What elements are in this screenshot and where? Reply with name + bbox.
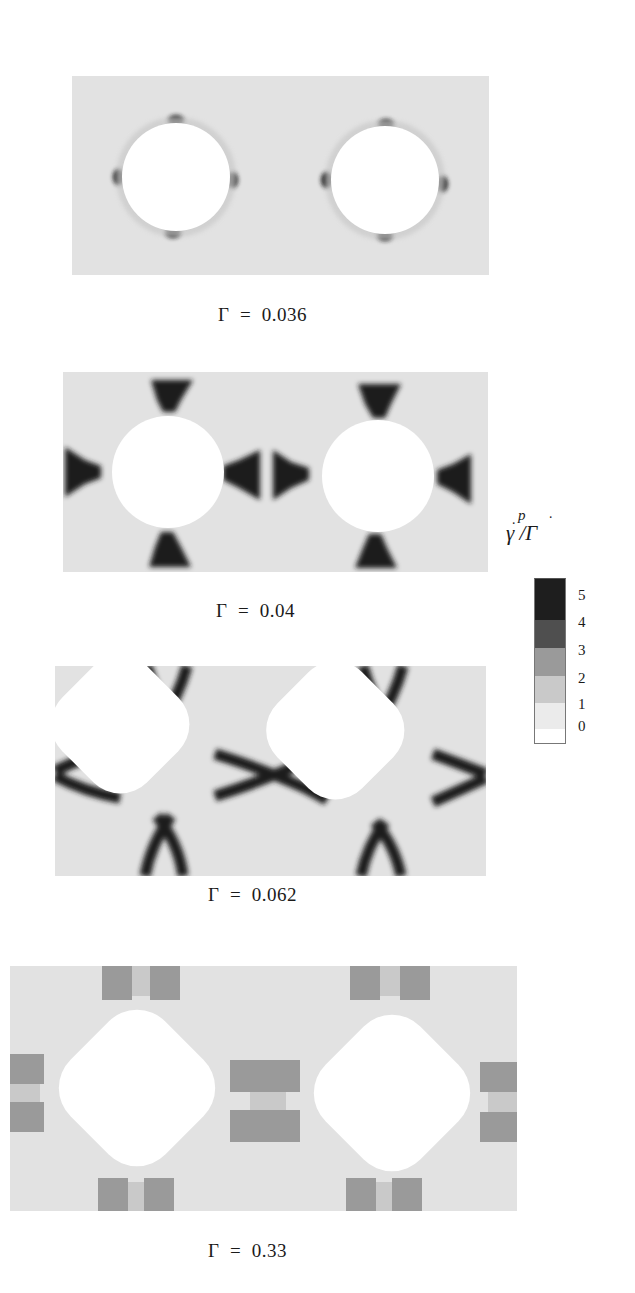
colorbar-tick-0: 0: [578, 718, 586, 735]
hole-1: [112, 416, 224, 528]
colorbar-tick-2: 2: [578, 670, 586, 687]
contour-plot-gamma-033: [10, 966, 517, 1211]
hole-2: [331, 126, 439, 234]
colorbar-level-0: [534, 729, 566, 744]
contour-panel-3: [55, 666, 486, 876]
contour-panel-2: [63, 372, 488, 572]
colorbar-tick-4: 4: [578, 614, 586, 631]
hole-1: [122, 123, 230, 231]
colorbar-title: ˙ p γ /Γ ˙: [506, 521, 537, 546]
colorbar-level-5: [534, 578, 566, 620]
colorbar: [534, 578, 566, 744]
caption-panel-3: Γ = 0.062: [208, 884, 297, 906]
colorbar-title-dot-2: ˙: [548, 513, 553, 531]
colorbar-title-dot: ˙: [510, 519, 515, 537]
colorbar-title-superscript: p: [518, 507, 526, 524]
hole-2: [322, 420, 434, 532]
caption-panel-4: Γ = 0.33: [208, 1240, 287, 1262]
colorbar-tick-5: 5: [578, 587, 586, 604]
colorbar-tick-3: 3: [578, 642, 586, 659]
colorbar-level-3: [534, 648, 566, 676]
contour-plot-gamma-0062: [55, 666, 486, 876]
contour-panel-1: [72, 76, 489, 275]
caption-panel-1: Γ = 0.036: [218, 304, 307, 326]
contour-plot-gamma-0036: [72, 76, 489, 275]
caption-panel-2: Γ = 0.04: [216, 600, 295, 622]
colorbar-tick-1: 1: [578, 696, 586, 713]
colorbar-level-2: [534, 676, 566, 703]
colorbar-level-4: [534, 620, 566, 648]
contour-panel-4: [10, 966, 517, 1211]
contour-plot-gamma-004: [63, 372, 488, 572]
colorbar-level-1: [534, 703, 566, 729]
